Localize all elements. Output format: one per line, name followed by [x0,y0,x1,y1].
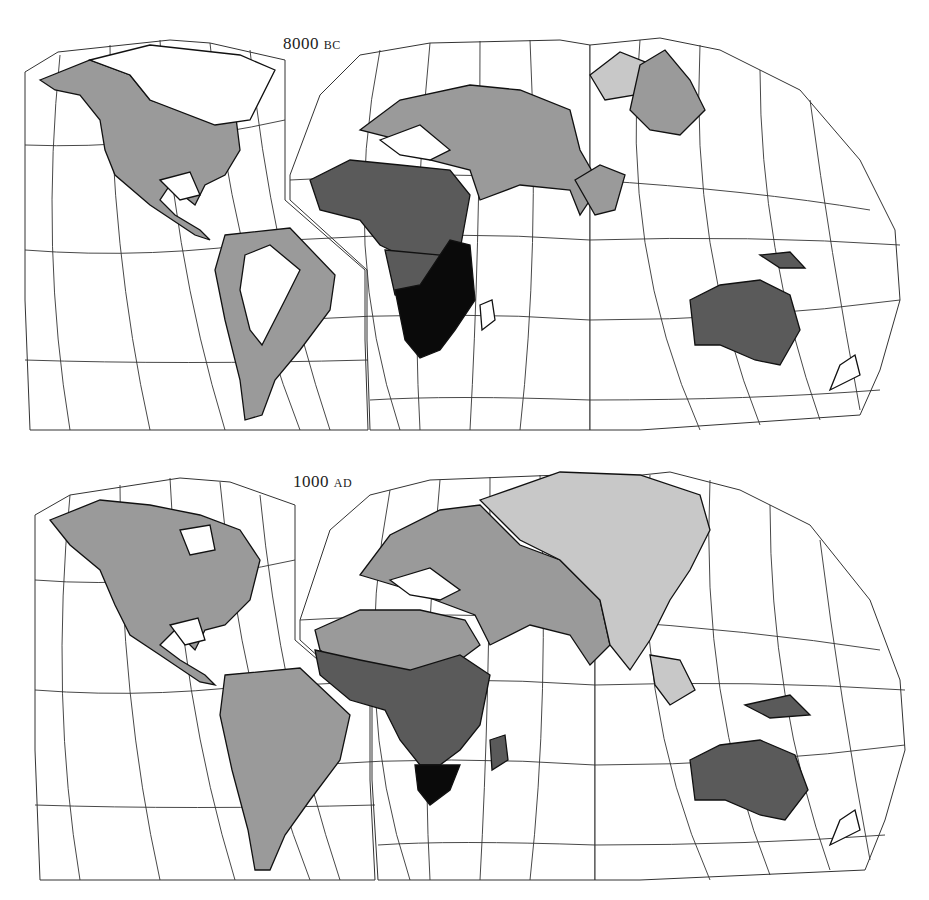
world-map-8000bc: 8000 BC [0,0,929,450]
map-canvas [0,0,929,450]
map-canvas [0,450,929,900]
world-map-1000ad: 1000 AD [0,450,929,900]
map-date-label: 1000 AD [293,472,352,492]
date-number: 8000 [283,34,319,53]
date-era: AD [334,476,352,490]
date-number: 1000 [293,472,329,491]
map-date-label: 8000 BC [283,34,341,54]
date-era: BC [324,38,341,52]
